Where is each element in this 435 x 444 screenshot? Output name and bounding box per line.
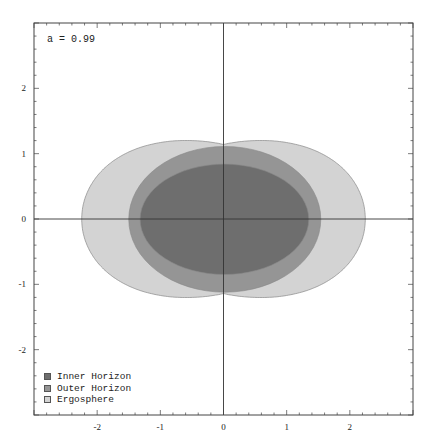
legend-item-ergosphere: Ergosphere — [44, 394, 131, 406]
legend-label-ergosphere: Ergosphere — [57, 394, 114, 406]
legend-swatch-outer — [44, 385, 51, 392]
y-tick-label: 2 — [22, 83, 27, 93]
y-tick-label: 1 — [22, 149, 27, 159]
legend-item-outer-horizon: Outer Horizon — [44, 383, 131, 395]
spin-parameter-annotation: a = 0.99 — [47, 34, 95, 45]
x-tick-label: 1 — [284, 422, 289, 432]
y-tick-label: -1 — [19, 279, 27, 289]
legend-label-inner: Inner Horizon — [57, 371, 131, 383]
legend-swatch-inner — [44, 373, 51, 380]
x-tick-label: -2 — [93, 422, 101, 432]
legend-label-outer: Outer Horizon — [57, 383, 131, 395]
y-tick-label: -2 — [19, 345, 27, 355]
x-tick-label: 2 — [348, 422, 353, 432]
x-tick-label: -1 — [157, 422, 165, 432]
legend-swatch-ergosphere — [44, 396, 51, 403]
legend-item-inner-horizon: Inner Horizon — [44, 371, 131, 383]
y-tick-label: 0 — [22, 214, 27, 224]
legend: Inner Horizon Outer Horizon Ergosphere — [44, 371, 131, 406]
x-tick-label: 0 — [221, 422, 226, 432]
